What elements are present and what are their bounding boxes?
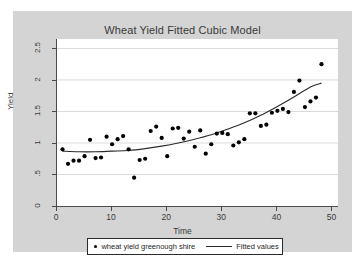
x-tick-label: 50 bbox=[317, 212, 345, 222]
x-tick-label: 40 bbox=[262, 212, 290, 222]
x-tick-label: 20 bbox=[152, 212, 180, 222]
y-tick-label: 2.5 bbox=[33, 37, 42, 59]
data-point bbox=[182, 136, 186, 140]
x-tick-mark bbox=[221, 207, 222, 211]
y-tick-label: 2 bbox=[33, 68, 42, 90]
data-point bbox=[66, 162, 70, 166]
data-point bbox=[187, 130, 191, 134]
data-point bbox=[149, 129, 153, 133]
data-point bbox=[248, 111, 252, 115]
data-point bbox=[77, 159, 81, 163]
y-tick-label: 1.5 bbox=[33, 100, 42, 122]
legend-marker-icon bbox=[94, 245, 97, 248]
data-point bbox=[71, 159, 75, 163]
data-point bbox=[160, 136, 164, 140]
data-point bbox=[143, 157, 147, 161]
data-point bbox=[270, 111, 274, 115]
legend-label-scatter: wheat yield greenough shire bbox=[101, 242, 195, 251]
data-point bbox=[264, 123, 268, 127]
data-point bbox=[82, 154, 86, 158]
data-point bbox=[138, 158, 142, 162]
legend-entry-scatter: wheat yield greenough shire bbox=[94, 242, 195, 251]
data-point bbox=[176, 126, 180, 130]
data-point bbox=[281, 107, 285, 111]
data-point bbox=[110, 142, 114, 146]
graph-region: Wheat Yield Fitted Cubic Model Yield 0.5… bbox=[13, 11, 352, 252]
data-point bbox=[231, 143, 235, 147]
data-point bbox=[215, 131, 219, 135]
legend-label-line: Fitted values bbox=[236, 242, 279, 251]
data-point bbox=[226, 132, 230, 136]
legend-line-icon bbox=[206, 246, 232, 247]
legend-entry-line: Fitted values bbox=[206, 242, 279, 251]
data-point bbox=[193, 145, 197, 149]
data-point bbox=[204, 152, 208, 156]
data-point bbox=[60, 147, 64, 151]
data-point bbox=[220, 131, 224, 135]
data-point bbox=[286, 110, 290, 114]
data-point bbox=[154, 125, 158, 129]
x-tick-mark bbox=[56, 207, 57, 211]
y-tick-label: 1 bbox=[33, 131, 42, 153]
data-point bbox=[259, 124, 263, 128]
x-tick-label: 0 bbox=[42, 212, 70, 222]
data-point bbox=[297, 78, 301, 82]
chart-title: Wheat Yield Fitted Cubic Model bbox=[13, 24, 352, 36]
data-point bbox=[104, 135, 108, 139]
fitted-values-line bbox=[63, 83, 322, 152]
data-point bbox=[314, 96, 318, 100]
chart-screenshot: Wheat Yield Fitted Cubic Model Yield 0.5… bbox=[0, 0, 364, 265]
x-tick-mark bbox=[111, 207, 112, 211]
data-point bbox=[88, 138, 92, 142]
plot-svg bbox=[57, 39, 338, 206]
plot-area bbox=[56, 39, 338, 207]
y-tick-label: .5 bbox=[33, 163, 42, 185]
data-point bbox=[121, 134, 125, 138]
x-tick-mark bbox=[276, 207, 277, 211]
x-tick-label: 10 bbox=[97, 212, 125, 222]
data-point bbox=[253, 111, 257, 115]
x-tick-label: 30 bbox=[207, 212, 235, 222]
data-point bbox=[319, 62, 323, 66]
data-point bbox=[171, 126, 175, 130]
data-point bbox=[93, 156, 97, 160]
chart-legend: wheat yield greenough shire Fitted value… bbox=[87, 238, 283, 255]
data-point bbox=[292, 90, 296, 94]
x-tick-mark bbox=[166, 207, 167, 211]
data-point bbox=[242, 137, 246, 141]
data-point bbox=[116, 137, 120, 141]
data-point bbox=[308, 99, 312, 103]
data-point bbox=[132, 176, 136, 180]
y-tick-label: 0 bbox=[33, 195, 42, 217]
data-point bbox=[209, 142, 213, 146]
x-axis-label: Time bbox=[13, 226, 352, 236]
y-axis-label: Yield bbox=[6, 93, 15, 111]
data-point bbox=[99, 155, 103, 159]
data-point bbox=[303, 105, 307, 109]
data-point bbox=[127, 147, 131, 151]
data-point bbox=[275, 109, 279, 113]
x-tick-mark bbox=[331, 207, 332, 211]
data-point bbox=[237, 140, 241, 144]
gridlines bbox=[57, 48, 338, 174]
data-point bbox=[165, 154, 169, 158]
data-point bbox=[198, 128, 202, 132]
